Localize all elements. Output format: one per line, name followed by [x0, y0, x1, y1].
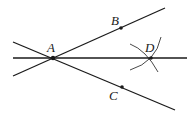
point-b	[119, 26, 123, 30]
geometry-diagram: ABCD	[0, 0, 194, 113]
point-d	[149, 56, 153, 60]
point-a	[51, 56, 55, 60]
point-c	[120, 85, 124, 89]
label-c: C	[109, 88, 118, 103]
label-b: B	[111, 13, 119, 28]
construction-lines	[13, 8, 187, 110]
label-a: A	[46, 40, 55, 55]
label-d: D	[144, 40, 155, 55]
ray-ab-line	[13, 8, 165, 76]
